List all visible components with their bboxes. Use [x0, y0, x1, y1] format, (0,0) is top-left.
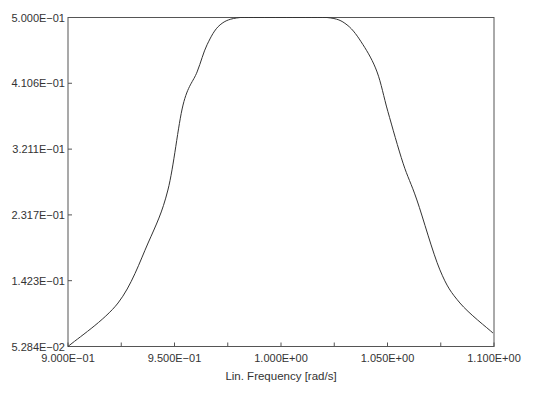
x-tick-label: 9.000E−01 [41, 352, 95, 364]
x-tick-label: 1.000E+00 [254, 352, 308, 364]
x-axis-title: Lin. Frequency [rad/s] [225, 370, 336, 382]
line-chart: 5.284E−021.423E−012.317E−013.211E−014.10… [0, 0, 533, 395]
x-tick-label: 1.050E+00 [361, 352, 415, 364]
y-tick-label: 5.000E−01 [11, 12, 65, 24]
y-tick-label: 3.211E−01 [12, 143, 65, 155]
x-tick-label: 1.100E+00 [467, 352, 521, 364]
y-tick-label: 1.423E−01 [11, 275, 65, 287]
x-tick-label: 9.500E−01 [148, 352, 202, 364]
x-axis: 9.000E−019.500E−011.000E+001.050E+001.10… [41, 343, 521, 364]
y-tick-label: 4.106E−01 [11, 77, 65, 89]
y-tick-label: 2.317E−01 [11, 209, 65, 221]
plot-frame [68, 18, 494, 347]
y-axis: 5.284E−021.423E−012.317E−013.211E−014.10… [11, 12, 72, 353]
data-line [68, 18, 493, 347]
